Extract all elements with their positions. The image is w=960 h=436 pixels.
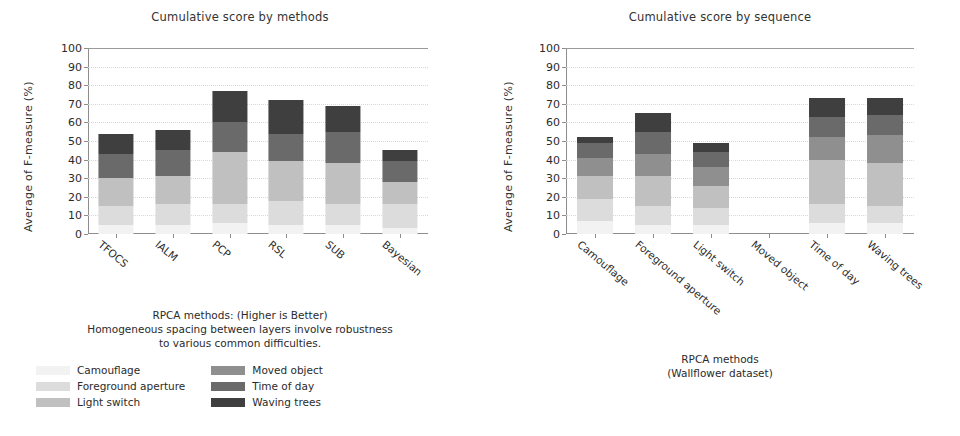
left-legend-swatch-icon (211, 382, 245, 391)
left-chart-panel: Cumulative score by methods Average of F… (0, 0, 480, 436)
right-bar-segment (577, 176, 613, 198)
left-bar-segment (325, 225, 360, 234)
left-y-tick-label: 80 (68, 79, 82, 92)
left-bar-segment (325, 204, 360, 224)
left-bar-slot[interactable]: RSL (258, 48, 315, 234)
left-bar-segment (325, 132, 360, 164)
right-bar-segment (693, 152, 729, 167)
left-bar-segment (212, 223, 247, 234)
left-bar-segment (212, 91, 247, 123)
left-legend-swatch-icon (36, 398, 70, 407)
right-x-tick-label: Waving trees (865, 238, 925, 291)
right-bar-segment (577, 158, 613, 177)
right-bar-slot[interactable]: Moved object (740, 48, 798, 234)
left-legend-item[interactable]: Moved object (211, 364, 323, 376)
right-bar-slot[interactable]: Light switch (682, 48, 740, 234)
right-x-tick-mark (595, 234, 596, 238)
left-x-tick-label: RSL (267, 238, 290, 260)
right-x-tick-label: Camouflage (575, 238, 631, 288)
left-stacked-bar[interactable] (269, 100, 304, 234)
right-stacked-bar[interactable] (809, 98, 845, 234)
right-chart-panel: Cumulative score by sequence Average of … (480, 0, 960, 436)
left-bar-segment (99, 178, 134, 206)
left-bar-slot[interactable]: SUB (315, 48, 372, 234)
left-stacked-bar[interactable] (325, 106, 360, 234)
left-stacked-bar[interactable] (212, 91, 247, 234)
left-bar-segment (99, 225, 134, 234)
left-bar-segment (99, 154, 134, 178)
right-x-tick-mark (653, 234, 654, 238)
left-caption: RPCA methods: (Higher is Better) Homogen… (0, 308, 480, 350)
right-bar-segment (635, 113, 671, 132)
right-stacked-bar[interactable] (693, 143, 729, 234)
right-bar-slot[interactable]: Waving trees (856, 48, 914, 234)
left-x-tick-mark (173, 234, 174, 238)
left-legend-item[interactable]: Light switch (36, 396, 185, 408)
left-bar-segment (269, 100, 304, 133)
left-legend-label: Light switch (77, 396, 140, 408)
right-bar-segment (635, 154, 671, 176)
right-x-tick-mark (711, 234, 712, 238)
left-legend-item[interactable]: Waving trees (211, 396, 323, 408)
right-bar-slot[interactable]: Time of day (798, 48, 856, 234)
left-bar-segment (382, 182, 417, 204)
right-bar-segment (693, 225, 729, 234)
right-bar-segment (635, 176, 671, 206)
right-bar-segment (867, 98, 903, 115)
right-caption: RPCA methods (Wallflower dataset) (480, 352, 960, 380)
left-y-tick-label: 90 (68, 60, 82, 73)
right-y-tick-label: 80 (546, 79, 560, 92)
right-bar-segment (577, 221, 613, 234)
left-x-tick-mark (400, 234, 401, 238)
left-bar-segment (325, 163, 360, 204)
left-plot-area: 0102030405060708090100TFOCSIALMPCPRSLSUB… (88, 48, 428, 234)
right-y-tick-label: 90 (546, 60, 560, 73)
left-x-tick-label: SUB (323, 238, 347, 261)
right-bar-segment (577, 143, 613, 158)
right-bar-segment (867, 115, 903, 135)
right-bar-slot[interactable]: Camouflage (566, 48, 624, 234)
right-stacked-bar[interactable] (867, 98, 903, 234)
right-bar-segment (693, 167, 729, 186)
left-legend-item[interactable]: Camouflage (36, 364, 185, 376)
left-bar-segment (99, 134, 134, 154)
left-stacked-bar[interactable] (382, 150, 417, 234)
right-y-tick-label: 100 (539, 42, 560, 55)
left-caption-line-1: RPCA methods: (Higher is Better) (0, 308, 480, 322)
left-stacked-bar[interactable] (155, 130, 190, 234)
left-legend-label: Camouflage (77, 364, 140, 376)
left-bar-slot[interactable]: TFOCS (88, 48, 145, 234)
right-chart-title: Cumulative score by sequence (480, 10, 960, 24)
left-x-tick-label: Bayesian (380, 238, 424, 278)
left-bar-slot[interactable]: PCP (201, 48, 258, 234)
right-bar-segment (635, 132, 671, 154)
right-bar-segment (809, 98, 845, 117)
right-x-tick-label: Moved object (749, 238, 811, 293)
left-legend-column: CamouflageForeground apertureLight switc… (36, 364, 185, 408)
left-bar-slot[interactable]: Bayesian (371, 48, 428, 234)
right-bar-segment (867, 223, 903, 234)
left-bar-segment (382, 204, 417, 228)
left-stacked-bar[interactable] (99, 134, 134, 234)
right-bar-segment (577, 199, 613, 221)
right-bar-segment (635, 206, 671, 225)
left-bar-segment (269, 225, 304, 234)
right-y-tick-label: 0 (553, 228, 560, 241)
right-y-tick-label: 30 (546, 172, 560, 185)
right-stacked-bar[interactable] (635, 113, 671, 234)
left-x-tick-mark (230, 234, 231, 238)
left-bar-segment (382, 150, 417, 161)
right-bar-slot[interactable]: Foreground aperture (624, 48, 682, 234)
left-y-tick-label: 50 (68, 135, 82, 148)
left-legend-label: Time of day (252, 380, 314, 392)
right-bar-segment (809, 117, 845, 137)
left-legend-label: Waving trees (252, 396, 321, 408)
left-legend-item[interactable]: Time of day (211, 380, 323, 392)
right-x-tick-mark (827, 234, 828, 238)
right-y-tick-label: 50 (546, 135, 560, 148)
left-legend-item[interactable]: Foreground aperture (36, 380, 185, 392)
right-stacked-bar[interactable] (577, 137, 613, 234)
left-bar-slot[interactable]: IALM (145, 48, 202, 234)
right-bar-segment (867, 206, 903, 223)
left-y-tick-label: 60 (68, 116, 82, 129)
